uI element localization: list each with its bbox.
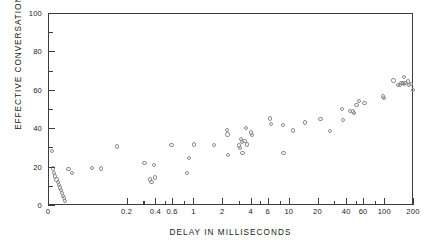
data-point: [250, 133, 254, 137]
scatter-plot-figure: 00.20.40.6124610204060100200 02040608010…: [0, 0, 435, 249]
data-point: [149, 180, 153, 184]
data-point: [240, 151, 244, 155]
data-point: [99, 166, 103, 170]
x-tick-minor: [280, 201, 281, 206]
data-point: [185, 171, 189, 175]
x-tick-label: 6: [265, 207, 269, 216]
x-tick-major: [363, 198, 364, 205]
x-tick-minor: [239, 201, 240, 206]
x-tick-label: 0.6: [167, 207, 178, 216]
x-tick-label: 60: [359, 207, 368, 216]
y-tick-minor: [48, 32, 53, 33]
x-tick-major: [384, 198, 385, 205]
data-point: [153, 175, 157, 179]
data-point: [50, 149, 54, 153]
y-tick-minor: [48, 71, 53, 72]
data-point: [340, 107, 344, 111]
x-tick-major: [251, 198, 252, 205]
y-tick-label: 20: [18, 162, 42, 171]
y-tick-major: [48, 13, 55, 14]
x-tick-minor: [143, 201, 144, 206]
data-point: [90, 166, 94, 170]
x-tick-minor: [184, 201, 185, 206]
data-point: [391, 78, 395, 82]
y-tick-minor: [48, 109, 53, 110]
data-point: [187, 156, 191, 160]
x-tick-minor: [356, 201, 357, 206]
data-point: [411, 88, 415, 92]
x-tick-major: [48, 198, 49, 205]
x-tick-minor: [260, 201, 261, 206]
x-tick-label: 0.2: [121, 207, 132, 216]
data-point: [362, 101, 366, 105]
data-point: [291, 128, 295, 132]
y-tick-major: [48, 90, 55, 91]
y-axis-title: EFFECTIVE CONVERSATIONS: [14, 0, 23, 140]
x-tick-major: [222, 198, 223, 205]
x-tick-major: [172, 198, 173, 205]
plot-frame: [48, 13, 413, 205]
x-tick-label: 200: [406, 207, 419, 216]
data-point: [226, 153, 230, 157]
x-tick-major: [155, 198, 156, 205]
data-point: [409, 82, 413, 86]
x-tick-major: [289, 198, 290, 205]
data-point: [244, 126, 248, 130]
x-tick-label: 10: [284, 207, 293, 216]
data-point: [402, 75, 406, 79]
y-tick-major: [48, 205, 55, 206]
x-tick-label: 0: [46, 207, 50, 216]
data-point: [192, 142, 196, 146]
x-tick-major: [318, 198, 319, 205]
data-point: [245, 142, 249, 146]
data-point: [382, 96, 386, 100]
x-tick-major: [127, 198, 128, 205]
x-tick-minor: [375, 201, 376, 206]
y-tick-minor: [48, 147, 53, 148]
data-point: [238, 146, 242, 150]
x-tick-label: 2: [220, 207, 224, 216]
data-points-layer: [49, 14, 412, 204]
data-point: [225, 128, 229, 132]
data-point: [341, 118, 345, 122]
data-point: [352, 111, 356, 115]
data-point: [142, 161, 146, 165]
data-point: [169, 143, 173, 147]
x-tick-label: 0.4: [150, 207, 161, 216]
x-tick-label: 4: [249, 207, 253, 216]
data-point: [152, 163, 156, 167]
y-tick-major: [48, 128, 55, 129]
y-tick-label: 0: [18, 201, 42, 210]
x-tick-label: 20: [313, 207, 322, 216]
y-tick-major: [48, 167, 55, 168]
x-tick-label: 100: [378, 207, 391, 216]
y-tick-minor: [48, 186, 53, 187]
x-tick-major: [268, 198, 269, 205]
x-tick-label: 1: [191, 207, 195, 216]
data-point: [269, 122, 273, 126]
data-point: [212, 143, 216, 147]
data-point: [318, 117, 322, 121]
x-tick-major: [193, 198, 194, 205]
data-point: [303, 120, 307, 124]
x-tick-major: [346, 198, 347, 205]
x-tick-minor: [165, 201, 166, 206]
data-point: [357, 99, 361, 103]
data-point: [354, 103, 358, 107]
data-point: [281, 151, 285, 155]
data-point: [115, 144, 119, 148]
y-tick-major: [48, 51, 55, 52]
data-point: [281, 123, 285, 127]
x-tick-minor: [334, 201, 335, 206]
data-point: [70, 171, 74, 175]
data-point: [328, 129, 332, 133]
data-point: [225, 132, 229, 136]
x-tick-major: [413, 198, 414, 205]
data-point: [268, 116, 272, 120]
x-axis-title: DELAY IN MILLISECONDS: [48, 228, 413, 237]
x-tick-label: 40: [342, 207, 351, 216]
data-point: [63, 199, 67, 203]
